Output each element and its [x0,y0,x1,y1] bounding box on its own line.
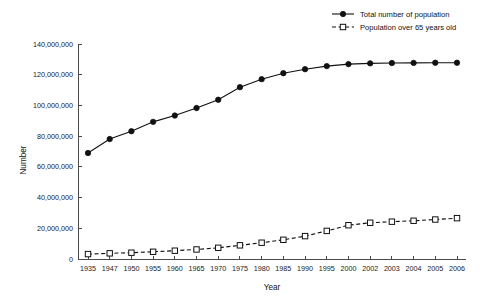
y-tick-label: 120,000,000 [33,70,73,79]
data-point-marker [194,105,199,110]
y-tick-label: 20,000,000 [37,224,73,233]
y-tick-label: 100,000,000 [33,101,73,110]
x-tick-label: 1935 [80,264,96,273]
data-point-marker [411,60,416,65]
data-point-marker [237,84,242,89]
data-point-marker [172,248,177,253]
data-point-marker [302,66,307,71]
y-tick-label: 60,000,000 [37,162,73,171]
y-tick-label: 140,000,000 [33,40,73,49]
data-point-marker [150,119,155,124]
data-point-marker [367,220,372,225]
x-tick-label: 2005 [427,264,443,273]
x-tick-label: 1965 [189,264,205,273]
x-tick-label: 1985 [275,264,291,273]
x-tick-label: 1995 [319,264,335,273]
y-tick-label: 40,000,000 [37,193,73,202]
x-tick-label: 1975 [232,264,248,273]
legend-item-total-population[interactable]: Total number of population [332,10,450,19]
x-axis-title: Year [264,283,281,292]
data-point-marker [302,233,307,238]
series-line [88,63,457,153]
x-tick-label: 2003 [384,264,400,273]
x-tick-label: 2004 [406,264,422,273]
data-point-marker [389,219,394,224]
y-tick-label: 0 [69,255,73,264]
x-tick-label: 1955 [145,264,161,273]
data-point-marker [107,136,112,141]
y-tick-label: 80,000,000 [37,132,73,141]
series-line [88,218,457,254]
data-point-marker [129,250,134,255]
data-point-marker [433,60,438,65]
data-point-marker [194,247,199,252]
legend-item-label: Total number of population [360,10,450,19]
data-point-marker [281,237,286,242]
x-axis-tick-labels: 1935194719501955196019651970197519801985… [80,256,465,274]
x-tick-label: 1960 [167,264,183,273]
data-point-marker [346,223,351,228]
data-point-marker [150,249,155,254]
data-point-marker [107,251,112,256]
y-axis-tick-labels: 020,000,00040,000,00060,000,00080,000,00… [33,40,81,264]
legend-marker-icon [340,24,345,29]
data-point-marker [433,217,438,222]
data-point-marker [454,60,459,65]
data-point-marker [85,150,90,155]
data-point-marker [389,60,394,65]
data-point-marker [259,76,264,81]
data-point-marker [454,215,459,220]
data-point-marker [346,61,351,66]
data-point-marker [367,61,372,66]
series-population-over-65 [85,215,459,256]
x-tick-label: 2002 [362,264,378,273]
x-tick-label: 1947 [102,264,118,273]
x-tick-label: 1980 [254,264,270,273]
data-point-marker [216,97,221,102]
chart-legend: Total number of populationPopulation ove… [332,10,456,32]
x-tick-label: 1950 [123,264,139,273]
data-point-marker [259,240,264,245]
data-series-layer [85,60,459,257]
data-point-marker [324,228,329,233]
chart-canvas: 020,000,00040,000,00060,000,00080,000,00… [0,0,484,296]
legend-item-label: Population over 65 years old [360,23,456,32]
data-point-marker [216,245,221,250]
data-point-marker [129,129,134,134]
series-total-population [85,60,459,156]
data-point-marker [281,70,286,75]
data-point-marker [411,218,416,223]
x-tick-label: 1970 [210,264,226,273]
y-axis-title: Number [19,145,28,174]
data-point-marker [172,113,177,118]
legend-item-population-over-65[interactable]: Population over 65 years old [332,23,456,32]
x-tick-label: 2006 [449,264,465,273]
x-tick-label: 2000 [340,264,356,273]
data-point-marker [237,243,242,248]
x-tick-label: 1990 [297,264,313,273]
data-point-marker [324,63,329,68]
legend-marker-icon [340,11,345,16]
data-point-marker [85,251,90,256]
population-line-chart: 020,000,00040,000,00060,000,00080,000,00… [0,0,484,296]
